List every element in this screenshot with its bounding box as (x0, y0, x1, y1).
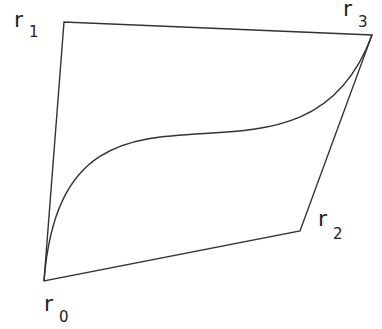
label-r2: r 2 (318, 206, 343, 243)
label-r0-main: r (44, 291, 54, 316)
label-r1: r 1 (14, 7, 39, 41)
control-polygon (44, 22, 372, 281)
label-r3: r 3 (343, 0, 368, 31)
label-r3-main: r (343, 0, 353, 21)
label-r2-main: r (318, 206, 328, 231)
label-r0: r 0 (44, 291, 69, 326)
label-r1-main: r (14, 7, 24, 32)
bezier-diagram: r 1 r 3 r 2 r 0 (0, 0, 382, 329)
label-r2-subscript: 2 (333, 225, 343, 243)
label-r0-subscript: 0 (59, 308, 69, 326)
label-r3-subscript: 3 (358, 13, 368, 31)
label-r1-subscript: 1 (29, 23, 39, 41)
bezier-curve (44, 35, 372, 281)
